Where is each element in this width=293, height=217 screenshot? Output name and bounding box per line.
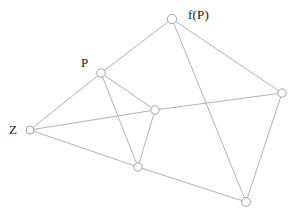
graph-node-BL[interactable] <box>134 163 142 171</box>
graph-node-fP[interactable] <box>167 14 176 23</box>
graph-node-C[interactable] <box>151 106 159 114</box>
graph-node-R[interactable] <box>278 89 286 97</box>
graph-edge <box>172 19 246 202</box>
graph-edge <box>30 73 101 130</box>
graph-node-P[interactable] <box>97 69 105 77</box>
graph-edge <box>101 19 172 73</box>
graph-edge <box>101 73 138 167</box>
graph-edge <box>246 93 282 202</box>
graph-edge <box>101 73 155 110</box>
graph-edge <box>30 130 138 167</box>
node-label-Z: Z <box>9 123 17 136</box>
node-label-fP: f(P) <box>188 8 209 21</box>
graph-canvas <box>0 0 293 217</box>
node-label-P: P <box>81 56 88 69</box>
node-layer <box>26 14 286 206</box>
graph-edge <box>30 110 155 130</box>
graph-node-BR[interactable] <box>242 198 251 207</box>
graph-node-Z[interactable] <box>26 126 34 134</box>
graph-edge <box>138 110 155 167</box>
graph-edge <box>155 93 282 110</box>
graph-edge <box>172 19 282 93</box>
graph-edge <box>138 167 246 202</box>
graph-diagram: f(P)PZ <box>0 0 293 217</box>
